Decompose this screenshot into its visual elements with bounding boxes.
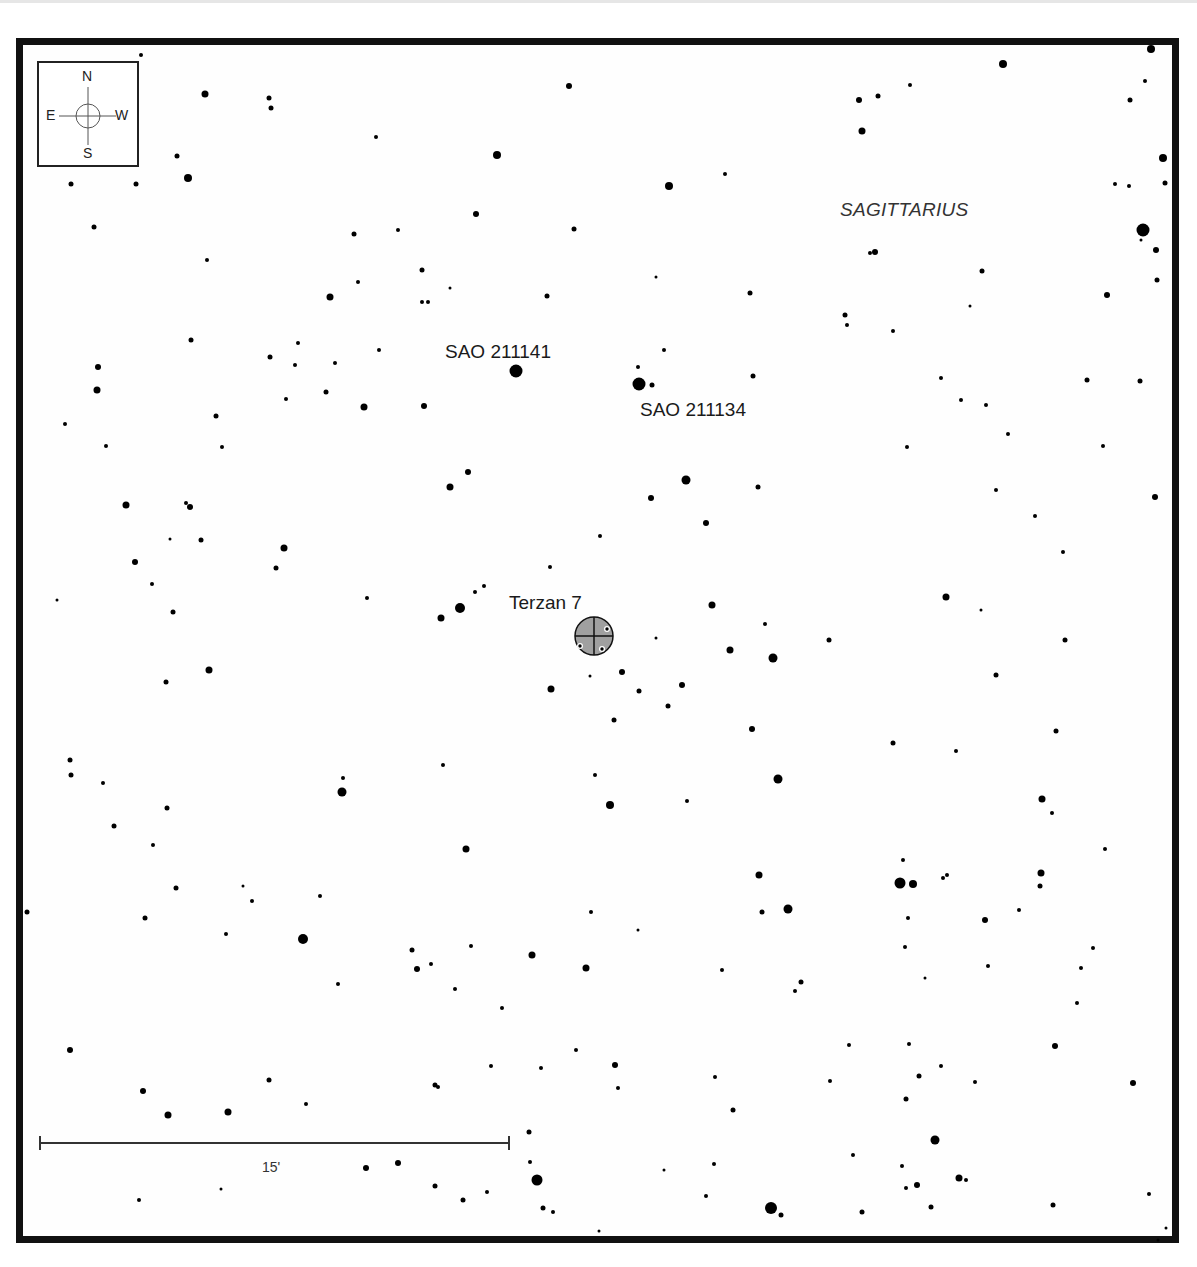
star-dot: [68, 758, 73, 763]
constellation-label: SAGITTARIUS: [840, 199, 969, 221]
star-dot: [205, 258, 209, 262]
star-dot: [663, 1169, 666, 1172]
globular-cluster-symbol[interactable]: [575, 617, 613, 655]
star-dot: [905, 445, 909, 449]
star-dot: [510, 365, 523, 378]
star-dot: [851, 1153, 855, 1157]
scale-bar-label: 15': [262, 1159, 280, 1175]
star-dot: [1152, 494, 1158, 500]
star-dot: [909, 880, 917, 888]
star-dot: [1157, 1239, 1160, 1242]
star-dot: [338, 788, 347, 797]
star-dot: [924, 977, 927, 980]
star-label-sao-211134: SAO 211134: [640, 399, 746, 421]
star-dot: [574, 1048, 578, 1052]
star-dot: [1159, 154, 1167, 162]
star-dot: [895, 878, 906, 889]
star-dot: [633, 378, 646, 391]
star-dot: [281, 545, 288, 552]
star-dot: [712, 1162, 716, 1166]
star-dot: [438, 615, 445, 622]
star-dot: [104, 444, 108, 448]
star-dot: [112, 824, 117, 829]
star-dot: [860, 1210, 865, 1215]
star-dot: [943, 594, 950, 601]
star-dot: [395, 1160, 401, 1166]
star-dot: [709, 602, 716, 609]
star-dot: [756, 872, 763, 879]
star-dot: [980, 269, 985, 274]
star-dot: [612, 718, 617, 723]
star-dot: [847, 1043, 851, 1047]
star-dot: [616, 1086, 620, 1090]
star-dot: [666, 704, 671, 709]
star-dot: [914, 1182, 920, 1188]
star-dot: [489, 1064, 493, 1068]
star-dot: [269, 106, 274, 111]
star-dot: [529, 952, 536, 959]
star-dot: [843, 313, 848, 318]
star-dot: [731, 1108, 736, 1113]
star-dot: [268, 355, 273, 360]
star-dot: [69, 773, 74, 778]
star-dot: [827, 638, 832, 643]
star-dot: [954, 749, 958, 753]
star-dot: [267, 96, 272, 101]
star-dot: [1103, 847, 1107, 851]
star-dot: [589, 675, 592, 678]
star-dot: [901, 858, 905, 862]
star-dot: [134, 182, 139, 187]
star-dot: [137, 1198, 141, 1202]
star-dot: [1061, 550, 1065, 554]
star-dot: [956, 1175, 963, 1182]
star-dot: [189, 338, 194, 343]
star-dot: [1079, 966, 1083, 970]
star-dot: [202, 91, 209, 98]
star-dot: [164, 680, 169, 685]
star-dot: [1163, 181, 1168, 186]
star-dot: [763, 622, 767, 626]
star-dot: [447, 484, 454, 491]
star-dot: [441, 763, 445, 767]
star-dot: [637, 689, 642, 694]
star-dot: [541, 1206, 546, 1211]
star-dot: [274, 566, 279, 571]
star-dot: [101, 781, 105, 785]
star-dot: [876, 94, 881, 99]
star-dot: [945, 873, 949, 877]
star-dot: [527, 1130, 532, 1135]
star-dot: [461, 1198, 466, 1203]
star-dot: [548, 565, 552, 569]
star-dot: [396, 228, 400, 232]
star-dot: [1155, 278, 1160, 283]
star-dot: [784, 905, 793, 914]
star-dot: [67, 1047, 73, 1053]
star-dot: [859, 128, 866, 135]
star-dot: [980, 609, 983, 612]
star-dot: [662, 348, 666, 352]
star-dot: [982, 917, 988, 923]
star-dot: [598, 534, 602, 538]
star-dot: [206, 667, 213, 674]
star-dot: [959, 398, 963, 402]
star-dot: [619, 669, 625, 675]
star-dot: [655, 637, 658, 640]
star-dot: [1101, 444, 1105, 448]
star-dot: [907, 1042, 911, 1046]
star-dot: [336, 982, 340, 986]
star-dot: [682, 476, 691, 485]
compass-south: S: [83, 145, 92, 161]
star-dot: [1075, 1001, 1079, 1005]
star-dot: [374, 135, 378, 139]
star-dot: [908, 83, 912, 87]
star-dot: [612, 1062, 618, 1068]
star-dot: [1050, 811, 1054, 815]
star-dot: [589, 910, 593, 914]
star-dot: [941, 876, 945, 880]
star-dot: [749, 726, 755, 732]
target-label-terzan-7: Terzan 7: [509, 592, 582, 614]
star-dot: [150, 582, 154, 586]
star-dot: [891, 741, 896, 746]
star-dot: [720, 968, 724, 972]
star-dot: [473, 590, 477, 594]
